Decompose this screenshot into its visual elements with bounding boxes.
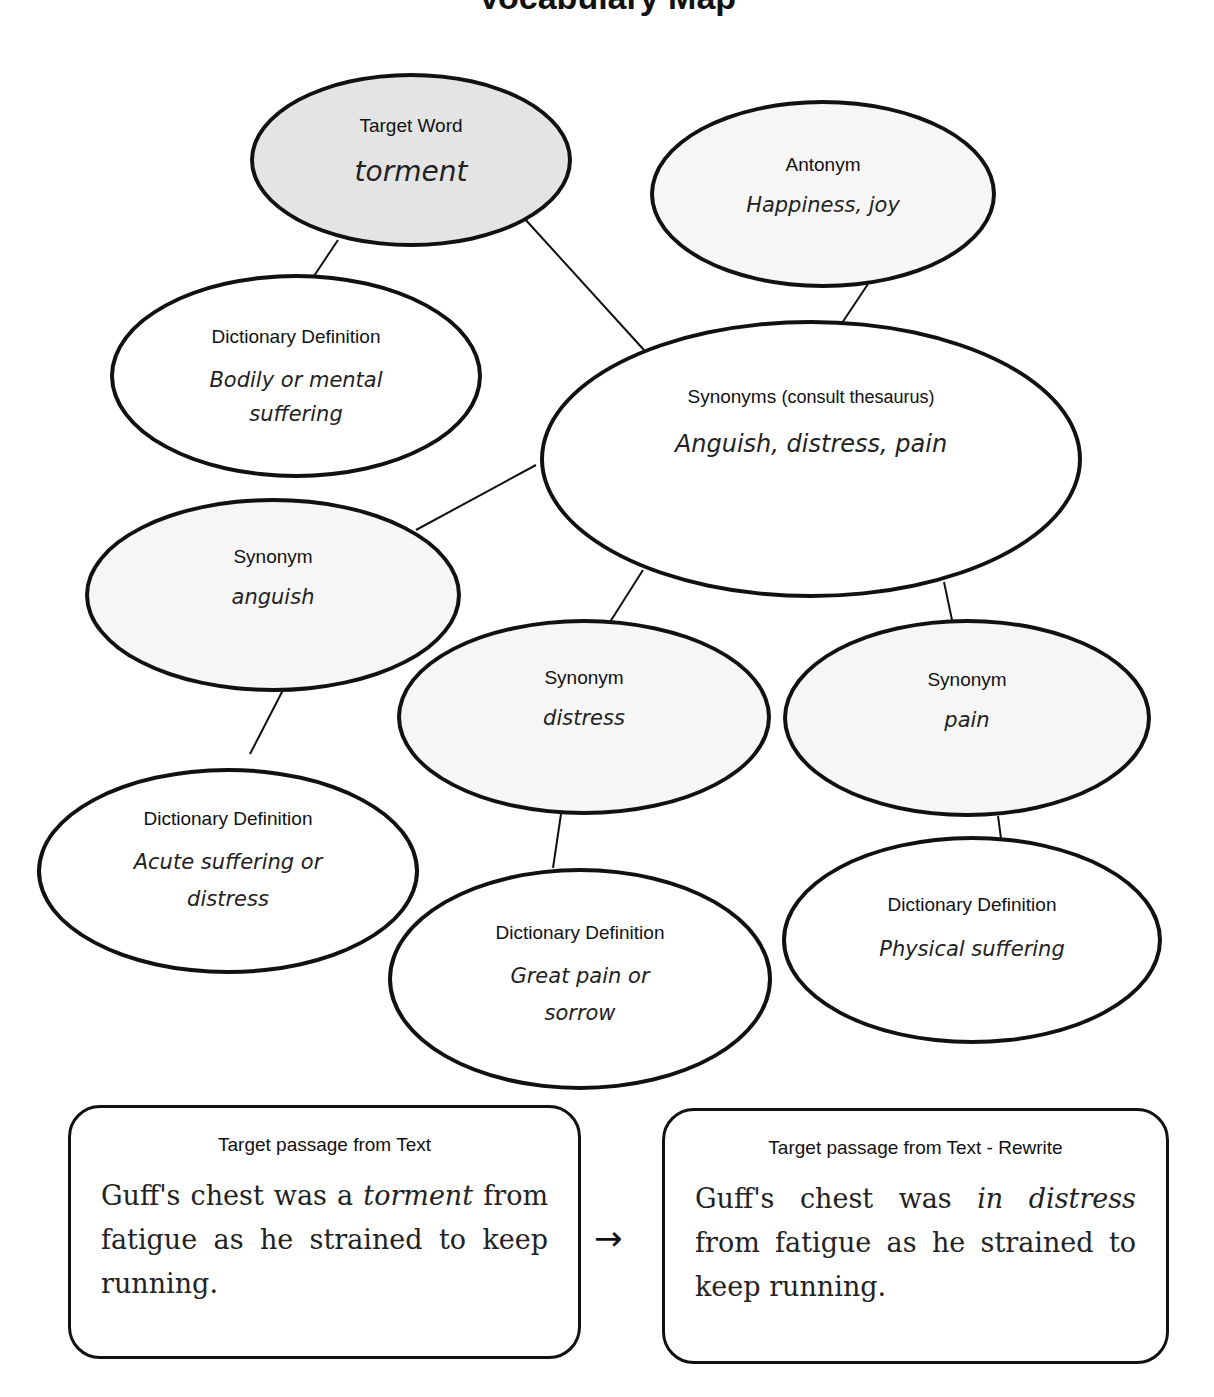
definition-anguish-label: Dictionary Definition (144, 808, 313, 830)
synonyms-label-main: Synonyms (687, 386, 776, 407)
passage-rewrite-text-before: Guff's chest was (695, 1183, 977, 1214)
passage-original-text: Guff's chest was a torment from fatigue … (101, 1174, 548, 1306)
synonym-pain-value: pain (944, 701, 989, 741)
passage-rewrite-highlight: in distress (977, 1183, 1136, 1214)
target-word-node: Target Word torment (250, 73, 572, 247)
definition-pain-label: Dictionary Definition (888, 894, 1057, 916)
definition-pain-value: Physical suffering (879, 930, 1065, 970)
target-word-value: torment (355, 145, 468, 198)
passage-rewrite-text-after: from fatigue as he strained to keep runn… (695, 1227, 1136, 1302)
definition-anguish-node: Dictionary Definition Acute suffering or… (37, 768, 419, 974)
definition-distress-node: Dictionary Definition Great pain or sorr… (388, 868, 772, 1090)
definition-target-value: Bodily or mental suffering (196, 364, 396, 431)
connector-synonyms-to-distress (610, 570, 643, 622)
antonym-node: Antonym Happiness, joy (650, 100, 996, 288)
synonyms-label-note: (consult thesaurus) (781, 387, 934, 407)
passage-original-highlight: torment (363, 1180, 473, 1211)
connector-target-to-definition (314, 240, 338, 276)
synonyms-value: Anguish, distress, pain (675, 422, 947, 468)
connector-synonyms-to-anguish (416, 465, 536, 530)
passage-original-box: Target passage from Text Guff's chest wa… (68, 1105, 581, 1359)
connector-target-to-synonyms (524, 218, 644, 350)
synonym-pain-node: Synonym pain (783, 619, 1151, 817)
passage-rewrite-box: Target passage from Text - Rewrite Guff'… (662, 1108, 1169, 1364)
connector-antonym-to-synonyms (840, 284, 868, 326)
synonyms-node: Synonyms (consult thesaurus) Anguish, di… (540, 320, 1082, 598)
definition-distress-value: Great pain or sorrow (495, 958, 665, 1032)
synonym-anguish-label: Synonym (233, 546, 312, 568)
connector-distress-to-definition (553, 814, 561, 868)
synonym-distress-label: Synonym (544, 667, 623, 689)
synonym-anguish-node: Synonym anguish (85, 498, 461, 692)
connector-anguish-to-definition (250, 690, 283, 754)
passage-rewrite-text: Guff's chest was in distress from fatigu… (695, 1177, 1136, 1309)
synonym-distress-node: Synonym distress (397, 619, 771, 815)
definition-distress-label: Dictionary Definition (496, 922, 665, 944)
passage-rewrite-title: Target passage from Text - Rewrite (695, 1137, 1136, 1159)
target-word-label: Target Word (359, 115, 462, 137)
definition-pain-node: Dictionary Definition Physical suffering (782, 836, 1162, 1044)
antonym-label: Antonym (786, 154, 861, 176)
definition-target-node: Dictionary Definition Bodily or mental s… (110, 274, 482, 478)
synonym-anguish-value: anguish (232, 578, 315, 618)
antonym-value: Happiness, joy (746, 186, 900, 226)
definition-target-label: Dictionary Definition (212, 326, 381, 348)
synonym-distress-value: distress (543, 699, 625, 739)
synonyms-label: Synonyms (consult thesaurus) (687, 386, 934, 408)
passage-original-text-before: Guff's chest was a (101, 1180, 363, 1211)
passage-original-title: Target passage from Text (101, 1134, 548, 1156)
synonym-pain-label: Synonym (927, 669, 1006, 691)
connector-synonyms-to-pain (944, 582, 952, 620)
definition-anguish-value: Acute suffering or distress (118, 844, 338, 918)
arrow-right-icon: → (594, 1218, 623, 1258)
